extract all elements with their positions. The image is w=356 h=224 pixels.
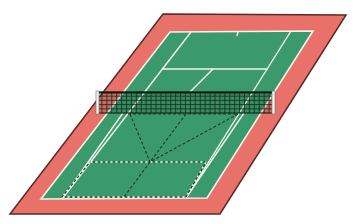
tennis-net <box>96 91 275 114</box>
tennis-court-diagram: tennis court in oblique projection with … <box>0 0 356 224</box>
center-mark-far-line <box>237 32 238 36</box>
left-net-post <box>96 91 99 114</box>
court-drawing <box>0 0 356 224</box>
right-net-post <box>272 91 275 114</box>
